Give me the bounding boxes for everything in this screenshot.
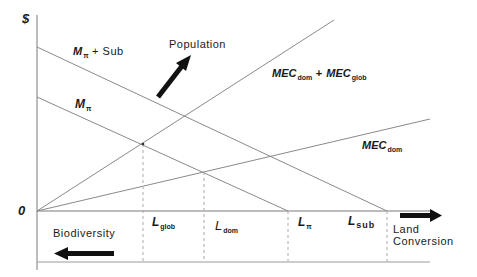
land-conversion-line2: Conversion	[393, 236, 454, 247]
marker-l-dom: Ldom	[215, 219, 238, 234]
marker-l-glob: Lglob	[152, 216, 175, 230]
label-suffix: + Sub	[89, 45, 124, 57]
marker-l-pi: Lπ	[298, 216, 312, 230]
label-main: M	[73, 45, 82, 57]
marker-sub: sub	[356, 220, 375, 230]
label-main: MEC	[362, 139, 386, 151]
marker-sub: π	[306, 223, 311, 230]
label-main: M	[75, 97, 85, 111]
population-label: Population	[169, 39, 226, 50]
label-plus: +	[312, 67, 326, 79]
marker-main: L	[152, 215, 159, 229]
label-a-sub: dom	[297, 74, 312, 81]
label-mec-dom: MECdom	[362, 140, 402, 153]
curve-m-pi	[37, 97, 288, 211]
marker-main: L	[298, 215, 305, 229]
curve-mec-dom	[37, 119, 430, 211]
marker-main: L	[348, 214, 355, 228]
label-sub: π	[86, 105, 91, 112]
marker-main: L	[215, 218, 222, 233]
land-conversion-line1: Land	[393, 224, 454, 235]
origin-label: 0	[18, 204, 25, 217]
label-b: MEC	[326, 67, 350, 79]
label-m-pi: Mπ	[75, 98, 91, 112]
biodiversity-arrow-icon	[54, 247, 114, 260]
y-axis-label: $	[22, 12, 29, 25]
biodiversity-label: Biodiversity	[53, 228, 115, 239]
population-arrow-icon	[158, 55, 191, 97]
label-m-pi-plus-sub: Mπ + Sub	[73, 46, 124, 59]
economics-diagram: $ 0 Mπ + Sub Mπ MECdom + MECglob MECdom …	[0, 0, 477, 277]
label-mec-total: MECdom + MECglob	[272, 68, 367, 81]
marker-l-sub: Lsub	[348, 215, 375, 230]
label-sub: dom	[387, 146, 402, 153]
marker-sub: glob	[160, 223, 175, 230]
land-conversion-label: Land Conversion	[393, 224, 454, 247]
label-a: MEC	[272, 67, 296, 79]
label-b-sub: glob	[352, 74, 367, 81]
intersection-point	[142, 143, 145, 146]
marker-sub: dom	[223, 227, 238, 234]
